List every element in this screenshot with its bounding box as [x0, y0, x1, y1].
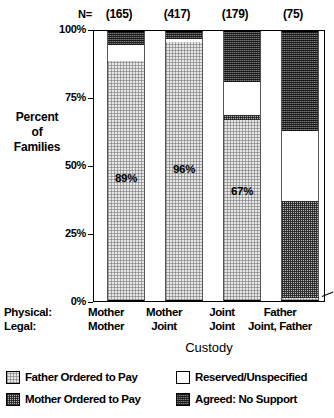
y-axis-title: Percent of Families — [6, 110, 68, 155]
y-tick-label-75: 75% — [40, 91, 86, 103]
segment-agreed-no-support-4 — [281, 31, 319, 131]
plot-area: 89% 96% 67% 1% — [93, 30, 325, 302]
bar-mother-mother: 89% — [107, 31, 145, 301]
segment-mother-ordered-to-pay-4 — [281, 201, 319, 298]
segment-father-ordered-to-pay-1: 89% — [107, 61, 145, 301]
segment-agreed-no-support-3 — [223, 31, 261, 82]
y-axis-title-line-1: Percent — [6, 110, 68, 125]
y-tick-mark-0 — [88, 302, 93, 303]
sample-size-value-3: (179) — [210, 7, 260, 21]
legend-item-agreed-no-support: Agreed: No Support — [176, 390, 297, 408]
sample-size-row: N= (165) (417) (179) (75) — [0, 6, 334, 24]
y-axis-title-line-3: Families — [6, 140, 68, 155]
legend-item-mother-ordered-to-pay: Mother Ordered to Pay — [6, 390, 141, 408]
bar-value-label-1: 89% — [108, 172, 144, 184]
y-tick-label-50: 50% — [40, 159, 86, 171]
sample-size-value-2: (417) — [152, 7, 202, 21]
legend-swatch-father-ordered-to-pay — [6, 371, 20, 384]
bar-value-label-3: 67% — [224, 185, 260, 197]
category-physical-4: Father — [241, 306, 319, 318]
bar-mother-joint: 96% — [165, 31, 203, 301]
segment-father-ordered-to-pay-2: 96% — [165, 42, 203, 301]
legend-label-agreed-no-support: Agreed: No Support — [195, 393, 297, 405]
sample-size-value-1: (165) — [94, 7, 144, 21]
bar-father-joint-father — [281, 31, 319, 301]
stacked-bar-chart: N= (165) (417) (179) (75) 100% 75% 50% 2… — [0, 0, 334, 418]
category-row-label-legal: Legal: — [4, 320, 36, 332]
y-axis-title-line-2: of — [6, 125, 68, 140]
chart-legend: Father Ordered to Pay Mother Ordered to … — [6, 368, 332, 414]
segment-agreed-no-support-1 — [107, 31, 145, 45]
legend-item-father-ordered-to-pay: Father Ordered to Pay — [6, 368, 137, 386]
category-legal-4: Joint, Father — [241, 320, 319, 332]
n-equals-label: N= — [78, 8, 92, 20]
legend-swatch-mother-ordered-to-pay — [6, 393, 20, 406]
legend-item-reserved-unspecified: Reserved/Unspecified — [176, 368, 307, 386]
bar-joint-joint: 67% — [223, 31, 261, 301]
callout-pointer-line — [322, 292, 334, 297]
x-axis-title: Custody — [93, 340, 325, 355]
legend-swatch-reserved-unspecified — [176, 371, 190, 384]
sample-size-value-4: (75) — [268, 7, 318, 21]
segment-father-ordered-to-pay-3: 67% — [223, 120, 261, 301]
segment-reserved-unspecified-1 — [107, 45, 145, 61]
segment-reserved-unspecified-4 — [281, 131, 319, 201]
legend-label-mother-ordered-to-pay: Mother Ordered to Pay — [25, 393, 141, 405]
legend-label-reserved-unspecified: Reserved/Unspecified — [195, 371, 307, 383]
category-row-label-physical: Physical: — [4, 306, 52, 318]
segment-reserved-unspecified-3 — [223, 82, 261, 114]
segment-father-ordered-to-pay-4 — [281, 298, 319, 301]
y-tick-label-25: 25% — [40, 227, 86, 239]
bar-value-label-2: 96% — [166, 163, 202, 175]
legend-swatch-agreed-no-support — [176, 393, 190, 406]
segment-agreed-no-support-2 — [165, 31, 203, 39]
legend-label-father-ordered-to-pay: Father Ordered to Pay — [25, 371, 137, 383]
y-tick-label-100: 100% — [40, 23, 86, 35]
